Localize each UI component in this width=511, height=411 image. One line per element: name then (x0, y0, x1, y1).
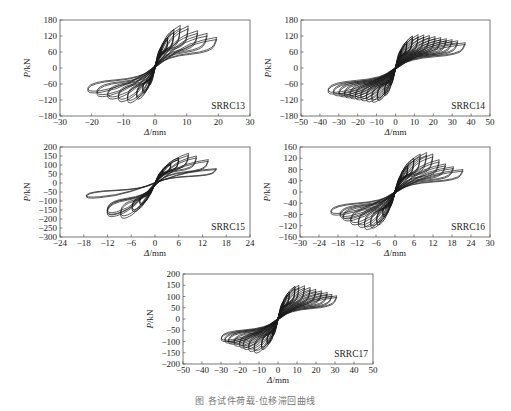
chart-srrc17: 200150100500−50−100−150−200−50−40−30−20−… (145, 269, 378, 385)
y-tick-label: −40 (283, 198, 298, 208)
y-tick-label: 100 (167, 292, 181, 302)
y-tick-label: 150 (167, 280, 181, 290)
x-tick-label: −30 (53, 117, 68, 127)
x-tick-label: 10 (293, 365, 303, 375)
x-tick-label: 30 (448, 117, 458, 127)
x-tick-label: 0 (153, 238, 158, 248)
x-tick-label: 24 (246, 238, 256, 248)
chart-srrc13: 180120600−60−120−180−30−20−100102030Δ/mm… (0, 0, 511, 411)
y-axis-label: P/kN (263, 58, 273, 79)
x-tick-label: −6 (371, 238, 381, 248)
specimen-label: SRRC14 (451, 101, 485, 111)
y-axis-label: P/kN (22, 182, 32, 203)
x-tick-label: −20 (233, 365, 248, 375)
x-axis-label: Δ/mm (143, 127, 166, 137)
y-axis-label: P/kN (145, 309, 155, 330)
x-tick-label: 6 (412, 238, 417, 248)
hysteresis-curves (331, 153, 463, 230)
specimen-label: SRRC17 (334, 349, 368, 359)
y-tick-label: −120 (278, 221, 297, 231)
x-tick-label: −10 (252, 365, 267, 375)
x-tick-label: 0 (393, 117, 398, 127)
x-tick-label: −24 (53, 238, 68, 248)
y-tick-label: −60 (43, 79, 58, 89)
chart-srrc13: 180120600−60−120−180−30−20−100102030Δ/mm… (22, 15, 255, 137)
y-tick-label: 200 (167, 269, 181, 279)
hysteresis-curves (88, 25, 217, 103)
y-tick-label: 80 (288, 165, 298, 175)
y-tick-label: 180 (285, 15, 299, 25)
x-tick-label: −12 (350, 238, 364, 248)
x-axis-label: Δ/mm (143, 248, 166, 258)
y-tick-label: 40 (288, 176, 298, 186)
y-tick-label: 120 (44, 31, 58, 41)
x-tick-label: −40 (195, 365, 210, 375)
y-tick-label: 50 (171, 303, 181, 313)
chart-srrc16: 16012080400−40−80−120−160−30−24−18−12−60… (262, 142, 495, 258)
x-tick-label: 6 (177, 238, 182, 248)
y-tick-label: −60 (284, 79, 299, 89)
x-tick-label: 30 (246, 117, 256, 127)
y-tick-label: 180 (44, 15, 58, 25)
x-tick-label: −50 (294, 117, 309, 127)
y-tick-label: −50 (166, 325, 181, 335)
x-axis-label: Δ/mm (383, 248, 406, 258)
y-tick-label: 160 (284, 142, 298, 152)
x-tick-label: −18 (77, 238, 92, 248)
x-tick-label: −30 (214, 365, 229, 375)
specimen-label: SRRC15 (211, 222, 245, 232)
y-axis-label: P/kN (22, 58, 32, 79)
y-tick-label: −80 (283, 210, 298, 220)
x-tick-label: 20 (312, 365, 322, 375)
x-tick-label: 50 (369, 365, 379, 375)
y-tick-label: 120 (284, 153, 298, 163)
x-tick-label: −10 (370, 117, 385, 127)
x-tick-label: 40 (350, 365, 360, 375)
y-tick-label: −150 (161, 348, 180, 358)
x-tick-label: 0 (153, 117, 158, 127)
y-tick-label: 120 (285, 31, 299, 41)
x-tick-label: 10 (182, 117, 192, 127)
x-tick-label: 18 (222, 238, 232, 248)
y-tick-label: 0 (176, 314, 181, 324)
y-tick-label: 60 (289, 47, 299, 57)
x-tick-label: 20 (429, 117, 439, 127)
y-tick-label: 0 (294, 63, 299, 73)
x-tick-label: 18 (448, 238, 458, 248)
x-tick-label: 30 (331, 365, 341, 375)
x-tick-label: 0 (276, 365, 281, 375)
y-axis-label: P/kN (262, 182, 272, 203)
x-tick-label: 50 (486, 117, 496, 127)
x-tick-label: 12 (429, 238, 438, 248)
x-axis-label: Δ/mm (266, 375, 289, 385)
x-tick-label: −12 (100, 238, 114, 248)
hysteresis-curves (86, 153, 216, 218)
y-tick-label: −120 (38, 95, 57, 105)
x-tick-label: 24 (467, 238, 477, 248)
x-tick-label: −20 (351, 117, 366, 127)
x-tick-label: 10 (410, 117, 420, 127)
figure-caption: 图 各试件荷载-位移滞回曲线 (0, 394, 511, 407)
x-tick-label: 12 (198, 238, 207, 248)
x-tick-label: −30 (293, 238, 308, 248)
y-tick-label: −120 (279, 95, 298, 105)
chart-srrc15: 200150100500−50−100−150−200−250−300−24−1… (22, 142, 255, 258)
x-tick-label: 20 (214, 117, 224, 127)
y-tick-label: 0 (293, 187, 298, 197)
x-tick-label: −24 (312, 238, 327, 248)
x-tick-label: −10 (116, 117, 131, 127)
hysteresis-curves (328, 35, 465, 103)
x-tick-label: 40 (467, 117, 477, 127)
x-tick-label: −50 (176, 365, 191, 375)
hysteresis-curves (221, 285, 337, 353)
specimen-label: SRRC16 (451, 222, 485, 232)
y-tick-label: 0 (53, 63, 58, 73)
x-tick-label: 0 (393, 238, 398, 248)
y-tick-label: 60 (48, 47, 58, 57)
x-tick-label: 30 (486, 238, 496, 248)
x-tick-label: −40 (313, 117, 328, 127)
specimen-label: SRRC13 (211, 101, 245, 111)
x-axis-label: Δ/mm (384, 127, 407, 137)
x-tick-label: −20 (85, 117, 100, 127)
x-tick-label: −30 (332, 117, 347, 127)
